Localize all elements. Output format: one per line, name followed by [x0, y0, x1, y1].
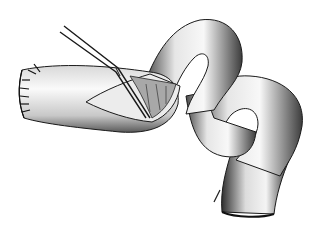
illustration-canvas — [0, 0, 320, 226]
bowel-illustration — [0, 0, 320, 226]
